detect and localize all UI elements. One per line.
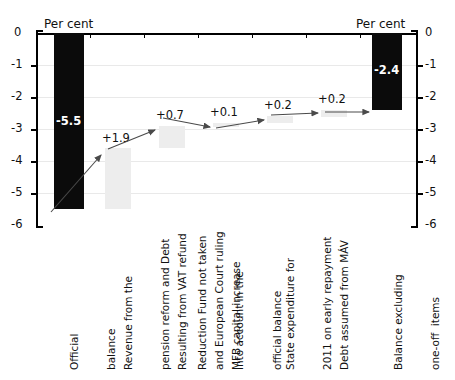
y-tick-label-left-6: -6 — [11, 219, 22, 231]
cat-line: Official — [68, 329, 80, 370]
bar-vat-refund-european-court[interactable] — [159, 126, 185, 148]
y-tick-label-right-4: -4 — [425, 155, 436, 167]
cat-line: MFB capital increase — [230, 262, 242, 371]
unit-caption-right: Per cent — [356, 17, 405, 31]
axis-left-bot-cap — [36, 226, 43, 228]
category-label-balance-excluding: Balance excluding one-off items — [367, 274, 455, 370]
plot-area: -5.5 +1.9 +0.7 +0.1 +0.2 +0.2 -2.4 — [36, 33, 418, 225]
category-label-debt-assumed-mav: Debt assumed from MÁV — [313, 240, 375, 370]
y-tick-label-left-0: 0 — [14, 27, 21, 39]
gridline-minus4 — [36, 161, 418, 162]
cat-line: Revenue from the — [122, 235, 134, 370]
y-tick-label-left-4: -4 — [11, 155, 22, 167]
axis-left-top-cap — [36, 30, 43, 32]
bar-value-mfb-capital: +0.1 — [210, 107, 238, 119]
gridline-minus5 — [36, 193, 418, 194]
axis-right-top-cap — [411, 30, 418, 32]
y-tick-label-left-3: -3 — [11, 123, 22, 135]
x-tick-4 — [252, 33, 253, 38]
category-label-mfb-capital-increase: MFB capital increase — [205, 262, 267, 371]
y-tick-right-4 — [418, 161, 423, 163]
y-tick-label-left-5: -5 — [11, 187, 22, 199]
y-tick-left-5 — [31, 193, 36, 195]
bar-value-debt-mav: +0.2 — [318, 94, 346, 106]
bar-value-pension-reform: +1.9 — [102, 133, 130, 145]
y-tick-left-2 — [31, 97, 36, 99]
y-tick-label-right-0: 0 — [425, 27, 432, 39]
unit-caption-left: Per cent — [44, 17, 93, 31]
bar-value-balance-excluding: -2.4 — [374, 65, 399, 77]
bar-value-state-expenditure: +0.2 — [264, 100, 292, 112]
cat-line: State expenditure for — [284, 237, 296, 370]
y-tick-label-right-3: -3 — [425, 123, 436, 135]
cat-line: Resulting from VAT refund — [176, 231, 188, 370]
y-tick-left-3 — [31, 129, 36, 131]
y-tick-label-right-5: -5 — [425, 187, 436, 199]
y-tick-label-left-2: -2 — [11, 91, 22, 103]
bar-pension-reform-debt-reduction-fund[interactable] — [105, 148, 131, 209]
gridline-minus3 — [36, 129, 418, 130]
y-tick-left-1 — [31, 65, 36, 67]
y-tick-right-2 — [418, 97, 423, 99]
y-tick-left-4 — [31, 161, 36, 163]
bar-state-expenditure-early-repayment[interactable] — [267, 116, 293, 123]
y-tick-label-right-1: -1 — [425, 59, 436, 71]
y-tick-right-1 — [418, 65, 423, 67]
x-tick-3 — [198, 33, 199, 38]
cat-line: Debt assumed from MÁV — [338, 240, 350, 370]
x-tick-6 — [360, 33, 361, 38]
x-tick-1 — [90, 33, 91, 38]
axis-left-spine — [36, 30, 38, 228]
gridline-minus1 — [36, 65, 418, 66]
cat-line: Balance excluding — [392, 274, 404, 370]
gridline-minus2 — [36, 97, 418, 98]
y-tick-label-left-1: -1 — [11, 59, 22, 71]
cat-line: one-off items — [429, 274, 441, 370]
bar-value-official-balance: -5.5 — [56, 116, 81, 128]
bar-value-vat-refund: +0.7 — [156, 110, 184, 122]
waterfall-chart: Per cent Per cent 0 -1 -2 -3 -4 -5 -6 0 … — [0, 0, 455, 380]
y-tick-right-3 — [418, 129, 423, 131]
y-tick-label-right-2: -2 — [425, 91, 436, 103]
x-tick-2 — [144, 33, 145, 38]
axis-right-bot-cap — [411, 226, 418, 228]
bar-debt-assumed-mav[interactable] — [321, 110, 347, 117]
y-tick-label-right-6: -6 — [425, 219, 436, 231]
x-tick-5 — [306, 33, 307, 38]
bar-mfb-capital-increase[interactable] — [213, 123, 239, 127]
y-tick-right-5 — [418, 193, 423, 195]
